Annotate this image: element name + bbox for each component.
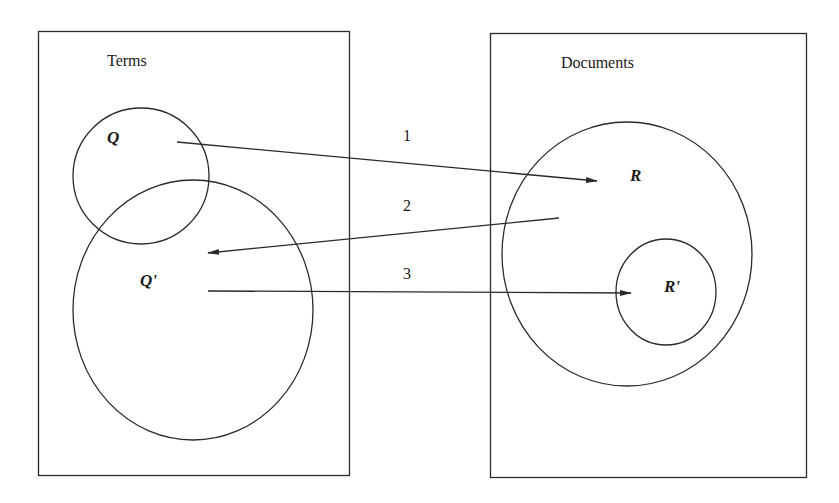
arrow-3-label: 3	[403, 266, 411, 282]
documents-panel-border	[491, 34, 807, 478]
documents-panel-title: Documents	[561, 55, 634, 71]
arrow-2-label: 2	[403, 198, 411, 214]
set-q-circle	[73, 108, 209, 244]
set-r-circle	[502, 122, 752, 386]
set-r-label: R	[630, 167, 641, 184]
set-q-label: Q	[107, 129, 119, 146]
arrow-1-label: 1	[403, 128, 411, 144]
set-q-prime-label: Q'	[140, 272, 157, 289]
arrow-2	[208, 218, 559, 253]
diagram-graphics	[0, 0, 839, 503]
arrow-3	[208, 291, 631, 293]
diagram-canvas: Terms Documents Q Q' R R' 1 2 3	[0, 0, 839, 503]
terms-panel-title: Terms	[107, 53, 147, 69]
set-r-prime-label: R'	[664, 278, 680, 295]
arrow-1	[177, 142, 597, 181]
